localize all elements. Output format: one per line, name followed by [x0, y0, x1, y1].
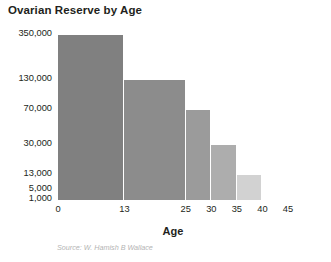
x-tick-label: 45: [273, 204, 303, 214]
ovarian-reserve-bar-chart: Ovarian Reserve by Age 1,0005,00013,0003…: [0, 0, 331, 262]
source-note: Source: W. Hamish B Wallace: [57, 243, 153, 252]
x-tick-label: 13: [109, 204, 139, 214]
x-tick-label: 0: [43, 204, 73, 214]
x-axis: 0132530354045: [0, 0, 331, 262]
x-axis-title: Age: [58, 225, 288, 237]
